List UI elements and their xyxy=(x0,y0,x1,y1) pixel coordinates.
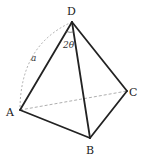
tetrahedron-diagram: D A B C 2θ a xyxy=(0,0,143,161)
vertex-label-A: A xyxy=(5,106,15,119)
vertex-label-D: D xyxy=(67,5,76,18)
vertex-label-B: B xyxy=(86,144,94,157)
edge-AC-hidden xyxy=(20,91,127,110)
edge-DB xyxy=(72,22,90,138)
angle-label-2theta: 2θ xyxy=(62,40,75,50)
vertex-label-C: C xyxy=(129,86,137,99)
edge-BC xyxy=(90,91,127,138)
edge-AB xyxy=(20,110,90,138)
angle-arc-ADB xyxy=(66,32,73,33)
length-label-a: a xyxy=(31,53,36,63)
edge-DA xyxy=(20,22,72,110)
